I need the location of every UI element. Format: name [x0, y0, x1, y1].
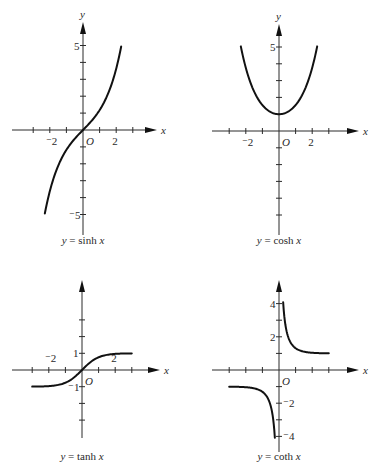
y-tick-label: 5 — [74, 40, 80, 52]
x-axis-label: x — [160, 124, 166, 136]
x-tick-label: ⁻2 — [45, 352, 57, 364]
x-axis-label: x — [163, 364, 169, 376]
coth-plot: x24⁻2⁻4Oy = coth x — [212, 280, 368, 462]
plot-caption: y = cosh x — [256, 234, 302, 246]
y-tick-label: ⁻4 — [283, 430, 295, 442]
x-tick-label: ⁻2 — [46, 135, 58, 147]
plot-caption: y = sinh x — [61, 234, 105, 246]
x-axis-arrow-icon — [347, 367, 359, 373]
origin-label: O — [85, 375, 93, 387]
x-axis-arrow-icon — [145, 127, 157, 133]
sinh-plot: xy2⁻25⁻5Oy = sinh x — [12, 8, 166, 246]
origin-label: O — [282, 375, 290, 387]
plot-caption: y = coth x — [256, 450, 300, 462]
x-axis-arrow-icon — [347, 128, 359, 134]
x-tick-label: 2 — [112, 135, 118, 147]
origin-label: O — [86, 135, 94, 147]
y-tick-label: ⁻1 — [68, 381, 80, 393]
y-tick-label: 2 — [270, 331, 276, 343]
x-axis-label: x — [362, 125, 368, 137]
y-axis-label: y — [275, 10, 281, 22]
y-tick-label: 5 — [270, 41, 276, 53]
function-curve — [229, 387, 275, 438]
y-tick-label: ⁻5 — [69, 209, 81, 221]
y-axis-arrow-icon — [80, 22, 86, 34]
y-axis-arrow-icon — [79, 280, 85, 292]
x-tick-label: ⁻2 — [242, 136, 254, 148]
y-axis-arrow-icon — [276, 24, 282, 36]
function-curve — [283, 302, 329, 353]
x-axis-label: x — [362, 364, 368, 376]
y-tick-label: 1 — [73, 347, 79, 359]
hyperbolic-functions-figure: xy2⁻25⁻5Oy = sinh x xy2⁻25Oy = cosh x x2… — [0, 0, 383, 475]
cosh-plot: xy2⁻25Oy = cosh x — [212, 10, 368, 246]
plots-canvas: xy2⁻25⁻5Oy = sinh x xy2⁻25Oy = cosh x x2… — [0, 0, 383, 475]
origin-label: O — [282, 136, 290, 148]
y-axis-arrow-icon — [276, 280, 282, 292]
y-axis-label: y — [79, 8, 85, 20]
x-tick-label: 2 — [308, 136, 314, 148]
y-tick-label: 4 — [270, 298, 276, 310]
plot-caption: y = tanh x — [59, 450, 103, 462]
y-tick-label: ⁻2 — [283, 397, 295, 409]
tanh-plot: x2⁻21⁻1Oy = tanh x — [12, 280, 169, 462]
x-axis-arrow-icon — [148, 367, 160, 373]
